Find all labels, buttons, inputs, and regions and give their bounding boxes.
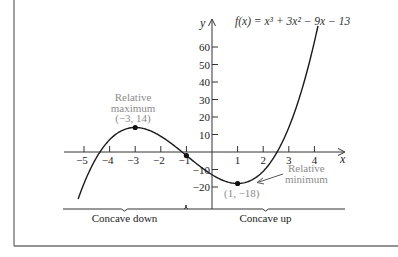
y-tick-label: −10 (193, 164, 211, 176)
concavity-chart: −5−4−3−2−11234605040302010−10−20 y x f(x… (0, 0, 398, 257)
concave-down-label: Concave down (92, 212, 158, 224)
y-tick-label: 10 (199, 129, 211, 141)
relative-minimum-arrow (257, 174, 283, 184)
inflection-brace-divider (184, 205, 188, 209)
relative-minimum-point (235, 181, 240, 186)
concave-up-brace (186, 209, 345, 211)
y-tick-label: 40 (199, 76, 211, 88)
relative-minimum-coords: (1, −18) (224, 187, 260, 200)
x-tick-label: −2 (153, 154, 165, 166)
x-tick-label: −4 (102, 154, 114, 166)
concave-down-brace (63, 209, 186, 211)
x-tick-label: −5 (76, 154, 88, 166)
y-tick-label: 30 (199, 94, 211, 106)
x-axis-label: x (339, 152, 346, 166)
concavity-braces (63, 205, 345, 211)
function-formula-title: f(x) = x³ + 3x² − 9x − 13 (235, 15, 350, 28)
key-points (133, 125, 241, 186)
concave-up-label: Concave up (239, 212, 292, 224)
y-axis-label: y (199, 16, 206, 30)
y-tick-label: 50 (199, 59, 211, 71)
x-tick-label: −3 (127, 154, 139, 166)
ticks: −5−4−3−2−11234605040302010−10−20 (76, 41, 318, 193)
inflection-point-point (184, 153, 189, 158)
relative-minimum-label-line2: minimum (285, 173, 328, 185)
y-tick-label: 20 (199, 111, 211, 123)
x-tick-label: 2 (260, 154, 266, 166)
x-tick-label: 1 (235, 154, 241, 166)
y-tick-label: −20 (193, 181, 211, 193)
y-tick-label: 60 (199, 41, 211, 53)
relative-maximum-coords: (−3, 14) (115, 112, 151, 125)
relative-maximum-point (133, 125, 138, 130)
